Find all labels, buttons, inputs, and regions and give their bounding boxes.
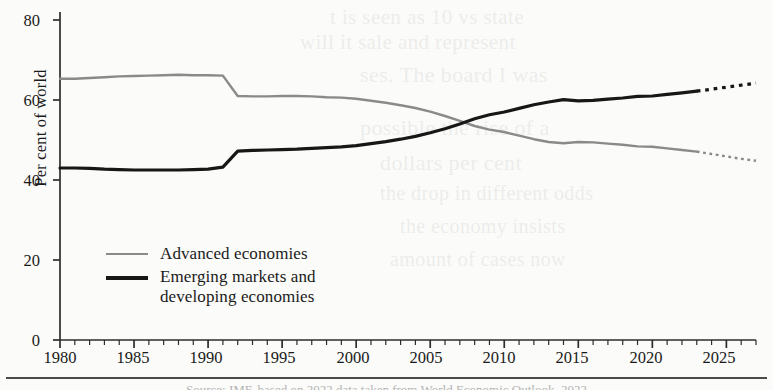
x-tick-label-2000: 2000 — [327, 348, 379, 368]
series-forecast-0 — [697, 152, 756, 161]
legend-label-emerging: Emerging markets anddeveloping economies — [160, 267, 316, 307]
legend-label-advanced: Advanced economies — [160, 244, 308, 264]
series-line-0 — [60, 75, 697, 152]
legend-item-emerging: Emerging markets anddeveloping economies — [106, 267, 316, 307]
footer-divider — [6, 377, 767, 379]
chart-figure: t is seen as 10 vs statewill it sale and… — [0, 0, 773, 390]
y-tick-label-40: 40 — [6, 171, 40, 191]
x-tick-label-2015: 2015 — [546, 348, 598, 368]
chart-legend: Advanced economies Emerging markets andd… — [106, 244, 316, 310]
series-forecast-1 — [697, 83, 756, 91]
x-tick-label-2020: 2020 — [620, 348, 672, 368]
series-line-1 — [60, 91, 697, 170]
y-tick-label-60: 60 — [6, 91, 40, 111]
x-tick-label-1990: 1990 — [180, 348, 232, 368]
legend-item-advanced: Advanced economies — [106, 244, 316, 264]
x-tick-label-2010: 2010 — [473, 348, 525, 368]
legend-swatch-emerging-line — [106, 276, 148, 280]
y-tick-label-20: 20 — [6, 251, 40, 271]
y-tick-label-80: 80 — [6, 11, 40, 31]
x-tick-label-1995: 1995 — [253, 348, 305, 368]
x-tick-label-1985: 1985 — [107, 348, 159, 368]
source-note: Source: IMF, based on 2022 data taken fr… — [0, 382, 773, 390]
x-tick-label-2025: 2025 — [693, 348, 745, 368]
x-tick-label-1980: 1980 — [34, 348, 86, 368]
plot-area — [0, 0, 773, 390]
x-tick-label-2005: 2005 — [400, 348, 452, 368]
legend-swatch-advanced-line — [106, 253, 148, 255]
